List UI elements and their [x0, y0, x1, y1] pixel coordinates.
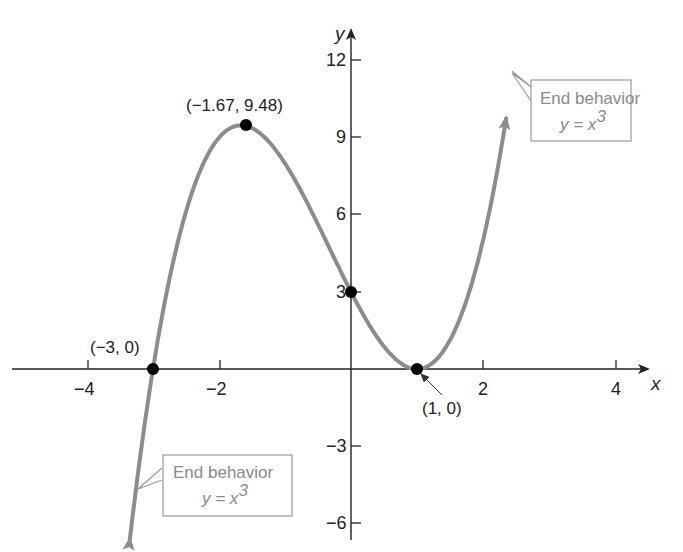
root-right-leader: [421, 374, 442, 395]
x-tick-label: 2: [478, 379, 488, 399]
y-intercept-point: [345, 286, 357, 298]
root-right-label: (1, 0): [422, 399, 462, 418]
x-ticks: [88, 360, 616, 369]
y-axis-label: y: [333, 23, 346, 44]
x-axis-label: x: [650, 373, 662, 394]
x-tick-label: −4: [74, 379, 95, 399]
x-tick-label: 4: [611, 379, 621, 399]
max-point: [240, 119, 252, 131]
y-tick-label: 3: [336, 282, 346, 302]
note-upper-title: End behavior: [540, 89, 641, 108]
max-point-label: (−1.67, 9.48): [186, 96, 283, 115]
root-point-left: [147, 363, 159, 375]
y-tick-label: 12: [326, 50, 346, 70]
y-tick-label: 6: [336, 204, 346, 224]
root-left-label: (−3, 0): [90, 338, 140, 357]
end-behavior-note-lower: End behavior y = x3: [138, 455, 292, 516]
note-lower-title: End behavior: [173, 463, 274, 482]
end-behavior-note-upper: End behavior y = x3: [512, 71, 641, 141]
y-tick-label: 9: [336, 127, 346, 147]
root-point-right: [411, 363, 423, 375]
y-tick-label: −3: [326, 436, 347, 456]
y-tick-label: −6: [326, 513, 347, 533]
polynomial-graph: x y −4 −2 2 4 12 9 6 3 −3 −6 (−1.67, 9.4…: [0, 0, 683, 552]
x-tick-label: −2: [206, 379, 227, 399]
